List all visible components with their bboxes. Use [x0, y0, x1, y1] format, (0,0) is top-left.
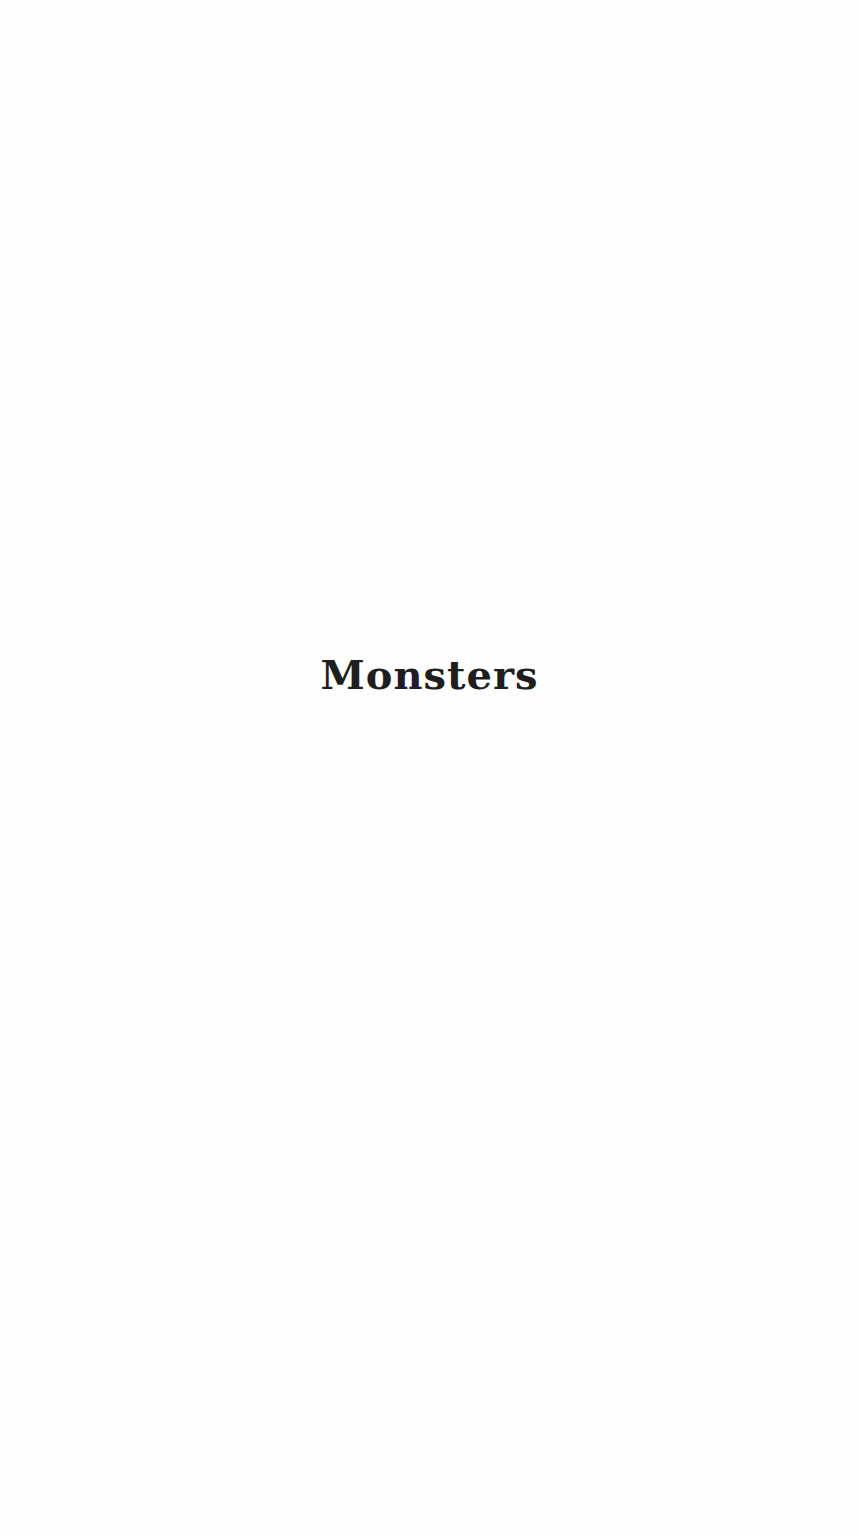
- page-title: Monsters: [0, 648, 859, 702]
- document-page: Monsters: [0, 0, 859, 1537]
